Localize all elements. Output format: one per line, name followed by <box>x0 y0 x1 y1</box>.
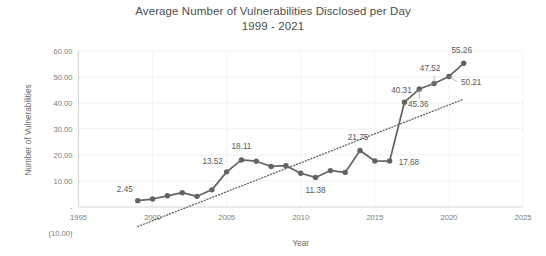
data-point-2000[interactable] <box>150 196 155 201</box>
data-point-2008[interactable] <box>268 164 273 169</box>
data-label-50.21: 50.21 <box>461 78 482 87</box>
y-axis-title: Number of Vulnerabilities <box>24 84 33 175</box>
data-point-2012[interactable] <box>328 168 333 173</box>
data-point-2006[interactable] <box>239 157 244 162</box>
x-tick-label-2005: 2005 <box>218 213 235 222</box>
y-tick-label-50: 50.00 <box>53 73 72 82</box>
data-point-2001[interactable] <box>165 193 170 198</box>
data-label-17.68: 17.68 <box>399 158 420 167</box>
x-tick-label-2020: 2020 <box>440 213 457 222</box>
data-label-13.52: 13.52 <box>202 157 223 166</box>
data-label-45.36: 45.36 <box>408 100 429 109</box>
data-point-2007[interactable] <box>254 159 259 164</box>
x-tick-label-1995: 1995 <box>70 213 87 222</box>
data-point-2011[interactable] <box>313 175 318 180</box>
data-point-2003[interactable] <box>194 194 199 199</box>
data-label-2.45: 2.45 <box>117 185 133 194</box>
data-label-55.26: 55.26 <box>451 46 472 55</box>
y-tick-label-60: 60.00 <box>53 47 72 56</box>
data-point-2010[interactable] <box>298 171 303 176</box>
data-point-2004[interactable] <box>209 187 214 192</box>
data-point-2015[interactable] <box>372 158 377 163</box>
y-tick-label-neg10: (10.00) <box>48 229 73 238</box>
chart-plot-area: 60.0050.0040.0030.0020.0010.00-(10.00)19… <box>0 0 546 256</box>
y-tick-label-0: - <box>70 203 73 212</box>
data-point-1999[interactable] <box>135 198 140 203</box>
data-point-2014[interactable] <box>357 148 362 153</box>
data-label-40.31: 40.31 <box>391 86 412 95</box>
data-point-2013[interactable] <box>343 170 348 175</box>
data-point-2002[interactable] <box>180 190 185 195</box>
data-label-21.75: 21.75 <box>348 133 369 142</box>
chart-container: Average Number of Vulnerabilities Disclo… <box>0 0 546 256</box>
data-point-2016[interactable] <box>387 158 392 163</box>
data-point-2020[interactable] <box>446 74 451 79</box>
x-tick-label-2010: 2010 <box>292 213 309 222</box>
data-label-18.11: 18.11 <box>232 142 252 151</box>
x-tick-label-2015: 2015 <box>366 213 383 222</box>
y-tick-label-40: 40.00 <box>53 99 72 108</box>
x-tick-label-2025: 2025 <box>515 213 532 222</box>
y-tick-label-20: 20.00 <box>53 151 72 160</box>
x-axis-title: Year <box>292 239 309 248</box>
data-point-2017[interactable] <box>402 99 407 104</box>
data-point-2009[interactable] <box>283 163 288 168</box>
data-point-2005[interactable] <box>224 169 229 174</box>
data-label-47.52: 47.52 <box>420 64 441 73</box>
y-tick-label-10: 10.00 <box>53 177 72 186</box>
data-label-11.38: 11.38 <box>306 186 326 195</box>
data-point-2021[interactable] <box>461 61 466 66</box>
y-tick-label-30: 30.00 <box>53 125 72 134</box>
